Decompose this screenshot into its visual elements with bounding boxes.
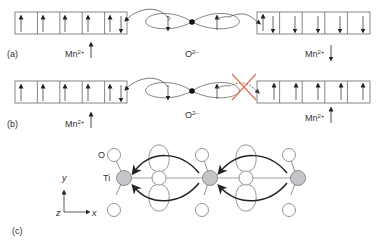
- panel-a: (a) Mn2+ O2– Mn2+: [7, 9, 370, 59]
- oxygen-nucleus: [189, 19, 195, 25]
- oxygen-atom: [152, 171, 166, 185]
- superexchange-diagram: (a) Mn2+ O2– Mn2+: [0, 0, 381, 247]
- spin-down-arrow-icon: [273, 16, 363, 31]
- panel-label-c: (c): [12, 226, 23, 236]
- hopping-arrow-icon: [229, 14, 259, 23]
- z-axis-label: z: [55, 208, 61, 218]
- right-mn-d-orbitals: [257, 12, 370, 34]
- left-ion-label: Mn2+: [65, 119, 85, 129]
- right-ion-label: Mn2+: [305, 49, 325, 59]
- oxygen-label: O: [98, 150, 105, 160]
- titanium-label: Ti: [103, 173, 110, 183]
- center-ion-label: O2–: [185, 110, 199, 120]
- center-ion-label: O2–: [185, 49, 199, 59]
- panel-c: O Ti y z x (c): [12, 145, 306, 236]
- panel-label-a: (a): [7, 49, 18, 59]
- spin-up-arrow-icon: [21, 17, 110, 32]
- x-axis-label: x: [91, 208, 97, 218]
- spin-up-arrow-icon: [274, 85, 363, 100]
- panel-b: (b) Mn2+ O2– Mn2+: [7, 74, 370, 129]
- right-ion-label: Mn2+: [305, 113, 325, 123]
- oxygen-atom: [239, 171, 253, 185]
- left-ion-label: Mn2+: [65, 49, 85, 59]
- coordinate-axes: y z x: [55, 173, 97, 218]
- panel-label-b: (b): [7, 119, 18, 129]
- y-axis-label: y: [61, 173, 67, 183]
- spin-up-arrow-icon: [21, 86, 110, 101]
- oxygen-nucleus: [189, 88, 195, 94]
